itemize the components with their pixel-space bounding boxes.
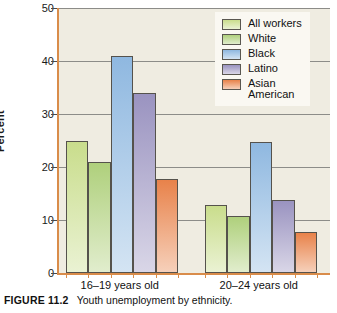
legend-label: Black <box>248 48 275 59</box>
y-tick-label: 50 <box>14 3 54 14</box>
x-tick-mark <box>227 273 228 278</box>
y-tick-label: 40 <box>14 56 54 67</box>
x-tick-mark <box>111 273 112 278</box>
bar <box>295 232 318 273</box>
y-tick-label: 20 <box>14 162 54 173</box>
y-tick-label: 10 <box>14 215 54 226</box>
bar <box>227 216 250 273</box>
legend-item[interactable]: All workers <box>222 18 302 30</box>
bar <box>66 141 89 274</box>
y-tick-label: 30 <box>14 109 54 120</box>
bar <box>250 142 273 273</box>
bar <box>205 205 228 273</box>
bar <box>111 56 134 273</box>
x-tick-mark <box>178 273 179 278</box>
bar <box>272 200 295 273</box>
legend-item[interactable]: White <box>222 33 302 45</box>
x-tick-mark <box>317 273 318 278</box>
legend-label: White <box>248 33 276 44</box>
legend-swatch-icon <box>222 64 241 75</box>
y-axis-title: Percent <box>0 110 6 152</box>
legend-label: Latino <box>248 63 278 74</box>
legend-swatch-icon <box>222 34 241 45</box>
legend-swatch-icon <box>222 19 241 30</box>
gridline <box>59 8 330 9</box>
x-tick-mark <box>205 273 206 278</box>
chart-legend: All workersWhiteBlackLatinoAsian America… <box>215 12 310 106</box>
x-group-label: 20–24 years old <box>220 279 298 291</box>
x-tick-mark <box>295 273 296 278</box>
legend-item[interactable]: Latino <box>222 63 302 75</box>
figure-caption-number: FIGURE 11.2 <box>4 294 69 306</box>
legend-swatch-icon <box>222 49 241 60</box>
x-tick-mark <box>66 273 67 278</box>
x-tick-mark <box>133 273 134 278</box>
legend-item[interactable]: Black <box>222 48 302 60</box>
legend-swatch-icon <box>222 79 241 90</box>
figure-container: Percent 01020304050 16–19 years old20–24… <box>0 0 337 313</box>
x-group-label: 16–19 years old <box>81 279 159 291</box>
x-tick-mark <box>272 273 273 278</box>
legend-label: Asian American <box>248 78 294 100</box>
x-tick-mark <box>250 273 251 278</box>
figure-caption: FIGURE 11.2Youth unemployment by ethnici… <box>4 294 233 306</box>
x-tick-mark <box>156 273 157 278</box>
bar <box>133 93 156 273</box>
gridline <box>59 114 330 115</box>
legend-item[interactable]: Asian American <box>222 78 302 100</box>
bar <box>88 162 111 273</box>
x-tick-mark <box>88 273 89 278</box>
y-tick-label: 0 <box>14 268 54 279</box>
figure-caption-text: Youth unemployment by ethnicity. <box>77 294 233 306</box>
legend-label: All workers <box>248 18 302 29</box>
bar <box>156 179 179 273</box>
